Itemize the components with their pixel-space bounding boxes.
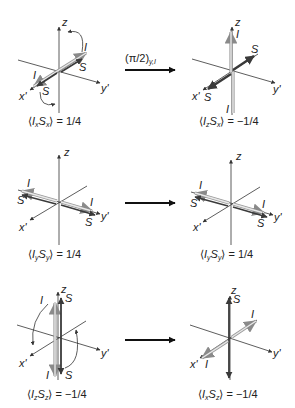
rotation-arc-icon <box>33 304 48 345</box>
z-axis-label: z <box>61 16 68 28</box>
expectation-iysy-result: ⟨IySy⟩ = 1/4 <box>200 248 253 262</box>
panel-iysy: z y' x' I S I S ⟨IySy⟩ = 1/4 <box>17 146 110 262</box>
vector-label-s: S <box>42 85 50 97</box>
y-axis-label: y' <box>273 211 283 223</box>
vector-label-s: S <box>257 217 265 229</box>
vector-label-i: I <box>84 41 87 53</box>
transform-arrow: (π/2)y,I <box>125 52 175 70</box>
x-axis-label: x' <box>18 357 28 369</box>
vector-label-s: S <box>251 43 259 55</box>
transform-label: (π/2)y,I <box>125 52 156 66</box>
vector-label-i: I <box>251 308 254 320</box>
rotation-arc-icon <box>68 31 83 52</box>
panel-iysy-result: z y' x' I S I S ⟨IySy⟩ = 1/4 <box>190 150 283 262</box>
vector-label-s: S <box>85 216 93 228</box>
z-axis-label: z <box>63 146 70 158</box>
y-axis-label: y' <box>100 82 110 94</box>
vector-label-i: I <box>226 103 229 115</box>
vector-label-i: I <box>46 369 49 381</box>
expectation-iysy: ⟨IySy⟩ = 1/4 <box>28 248 81 262</box>
x-axis-label: x' <box>189 358 199 370</box>
vector-label-i: I <box>262 198 265 210</box>
expectation-izsx: ⟨IzSx⟩ = −1/4 <box>199 115 259 128</box>
expectation-ixsz: ⟨IxSz⟩ = −1/4 <box>198 388 258 401</box>
s-vector-pair <box>37 59 82 86</box>
panel-izsx: z y' x' I S S I ⟨IzSx⟩ = −1/4 <box>191 16 282 128</box>
vector-label-s: S <box>190 197 198 209</box>
vector-label-s: S <box>79 61 87 73</box>
expectation-izsz: ⟨IzSz⟩ = −1/4 <box>27 388 87 401</box>
vector-label-i: I <box>236 28 239 40</box>
vector-label-s: S <box>65 369 73 381</box>
z-axis-label: z <box>235 150 242 162</box>
vector-label-i: I <box>27 177 30 189</box>
vector-label-i: I <box>90 196 93 208</box>
y-axis-label: y' <box>100 210 110 222</box>
vector-label-s: S <box>233 293 241 305</box>
s-vector-pair <box>22 195 95 215</box>
vector-label-i: I <box>199 179 202 191</box>
vector-label-s: S <box>204 91 212 103</box>
panel-izsz: z y' x' I S I S ⟨IzSz⟩ = −1/4 <box>17 283 110 401</box>
i-vector-pair <box>231 32 233 113</box>
x-axis-label: x' <box>192 221 202 233</box>
panel-ixsz: z y' x' S I I ⟨IxSz⟩ = −1/4 <box>189 284 282 401</box>
vector-label-s: S <box>17 194 25 206</box>
vector-label-i: I <box>40 294 43 306</box>
expectation-ixsx: ⟨IxSx⟩ = 1/4 <box>28 115 81 128</box>
panel-ixsx: z y' x' I S I S ⟨IxSx⟩ = 1/4 <box>18 16 110 128</box>
z-axis-label: z <box>234 16 241 28</box>
x-axis-label: x' <box>18 221 28 233</box>
vector-label-i: I <box>33 69 36 81</box>
y-axis-label: y' <box>100 347 110 359</box>
x-axis-label: x' <box>18 90 28 102</box>
x-axis-label: x' <box>191 90 201 102</box>
y-axis-label: y' <box>272 83 282 95</box>
vector-label-s: S <box>65 292 73 304</box>
y-axis-label: y' <box>272 347 282 359</box>
i-vector-pair <box>22 191 92 211</box>
rotation-arc-icon <box>65 330 78 368</box>
spin-vector-diagram: z y' x' I S I S ⟨IxSx⟩ = 1/4 (π/2)y,I z <box>0 0 295 408</box>
vector-label-i: I <box>205 358 208 370</box>
